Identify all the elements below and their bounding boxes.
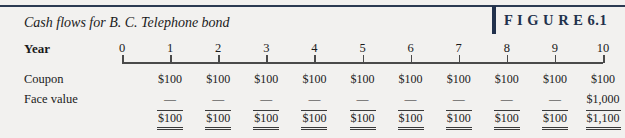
timeline-tick <box>363 55 365 63</box>
face-value-text: — <box>501 93 513 105</box>
timeline-tick <box>459 55 461 63</box>
face-value-text: — <box>453 93 465 105</box>
timeline-tick <box>555 55 557 63</box>
year-tick-label: 1 <box>143 41 197 56</box>
timeline-tick <box>603 55 605 63</box>
year-tick-label: 0 <box>95 41 149 56</box>
total-value-text: $100 <box>398 110 424 130</box>
face-value-text: $1,000 <box>587 93 620 105</box>
face-value: — <box>287 92 341 107</box>
total-value: $100 <box>143 110 197 130</box>
total-value-text: $100 <box>446 110 472 130</box>
total-value-text: $100 <box>205 110 231 130</box>
total-value: $1,100 <box>576 110 625 130</box>
year-tick-label: 6 <box>384 41 438 56</box>
total-value: $100 <box>432 110 486 130</box>
total-value: $100 <box>336 110 390 130</box>
row-label-year: Year <box>24 41 50 57</box>
year-tick-label: 2 <box>191 41 245 56</box>
year-tick-label: 7 <box>432 41 486 56</box>
face-value-text: — <box>308 93 320 105</box>
year-tick-label: 8 <box>480 41 534 56</box>
face-value: — <box>336 92 390 107</box>
coupon-value: $100 <box>384 72 438 87</box>
timeline-tick <box>507 55 509 63</box>
year-tick-label: 10 <box>576 41 625 56</box>
total-value-text: $100 <box>542 110 568 130</box>
timeline-tick <box>411 55 413 63</box>
timeline-tick <box>170 55 172 63</box>
face-value: — <box>384 92 438 107</box>
coupon-value: $100 <box>239 72 293 87</box>
total-value-text: $100 <box>350 110 376 130</box>
figure-accent-bar <box>492 6 496 34</box>
figure-container: F I G U R E 6.1 Cash flows for B. C. Tel… <box>0 0 625 138</box>
total-value: $100 <box>191 110 245 130</box>
year-tick-label: 5 <box>336 41 390 56</box>
face-value: — <box>528 92 582 107</box>
year-tick-label: 4 <box>287 41 341 56</box>
coupon-value: $100 <box>191 72 245 87</box>
total-value-text: $1,100 <box>586 110 621 130</box>
face-value-text: — <box>357 93 369 105</box>
total-value-text: $100 <box>494 110 520 130</box>
timeline-tick <box>266 55 268 63</box>
coupon-value: $100 <box>576 72 625 87</box>
total-value-text: $100 <box>253 110 279 130</box>
face-value: — <box>191 92 245 107</box>
year-tick-label: 9 <box>528 41 582 56</box>
coupon-value: $100 <box>480 72 534 87</box>
total-value: $100 <box>480 110 534 130</box>
face-value-text: — <box>405 93 417 105</box>
face-value: — <box>432 92 486 107</box>
timeline-tick <box>314 55 316 63</box>
face-value: — <box>239 92 293 107</box>
coupon-value: $100 <box>143 72 197 87</box>
total-value-text: $100 <box>157 110 183 130</box>
coupon-value: $100 <box>432 72 486 87</box>
total-value: $100 <box>528 110 582 130</box>
face-value: — <box>480 92 534 107</box>
top-rule <box>0 5 625 7</box>
face-value: $1,000 <box>576 92 625 107</box>
figure-caption: Cash flows for B. C. Telephone bond <box>24 15 230 31</box>
timeline-tick <box>122 55 124 63</box>
face-value-text: — <box>164 93 176 105</box>
coupon-value: $100 <box>287 72 341 87</box>
total-value: $100 <box>287 110 341 130</box>
face-value-text: — <box>260 93 272 105</box>
figure-label: F I G U R E 6.1 <box>504 12 607 29</box>
year-tick-label: 3 <box>239 41 293 56</box>
total-value: $100 <box>384 110 438 130</box>
total-value: $100 <box>239 110 293 130</box>
coupon-value: $100 <box>336 72 390 87</box>
total-value-text: $100 <box>301 110 327 130</box>
face-value: — <box>143 92 197 107</box>
face-value-text: — <box>549 93 561 105</box>
row-label-coupon: Coupon <box>24 72 64 87</box>
face-value-text: — <box>212 93 224 105</box>
row-label-face-value: Face value <box>24 92 78 107</box>
timeline-tick <box>218 55 220 63</box>
coupon-value: $100 <box>528 72 582 87</box>
